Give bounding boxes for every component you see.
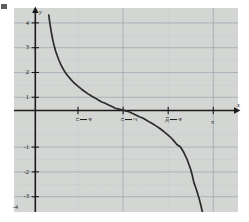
- x-tick-label-pi-over-4: π 4: [74, 118, 93, 121]
- cot-curve: [49, 15, 203, 212]
- y-tick-label-2: 2: [18, 69, 29, 76]
- x-tick-0-denominator: 4: [87, 118, 93, 121]
- x-tick-label-pi: π: [211, 119, 214, 125]
- x-tick-1-denominator: 2: [132, 118, 138, 121]
- fraction-bar: [170, 120, 177, 121]
- y-tick-label-1: 1: [18, 94, 29, 101]
- fraction-bar: [80, 119, 87, 120]
- x-tick-label-pi-over-2: π 2: [119, 118, 138, 121]
- y-tick-label-3: 3: [18, 44, 29, 51]
- chart-canvas: [0, 0, 249, 222]
- y-axis-title: y: [39, 8, 42, 15]
- y-tick-label-neg4: -4: [4, 204, 18, 211]
- y-tick-label-neg2: -2: [15, 169, 29, 176]
- y-tick-label-neg3: -3: [15, 193, 29, 200]
- x-tick-2-denominator: 4: [177, 119, 183, 122]
- y-tick-label-4: 4: [18, 20, 29, 27]
- chart-figure: π 4 π 2 3π 4 π 4 3 2 1 -1 -2 -3 -4 x y: [0, 0, 249, 222]
- y-tick-label-neg1: -1: [15, 144, 29, 151]
- x-axis-title: x: [237, 101, 240, 108]
- y-axis: [32, 7, 38, 213]
- fraction-bar: [125, 119, 132, 120]
- x-tick-label-3pi-over-4: 3π 4: [164, 117, 183, 123]
